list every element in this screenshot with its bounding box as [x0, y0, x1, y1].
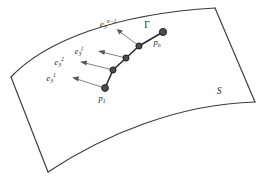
surface-boundary-bottom — [48, 102, 255, 172]
frame-vector-e3-1-head — [72, 76, 79, 81]
frame-vector-e3-n-minus-1 — [117, 29, 140, 46]
frame-vector-label-e3-1: e31 — [46, 72, 56, 84]
frame-vector-e3-j-head — [98, 50, 105, 55]
frame-vector-e3-j-shaft — [101, 52, 126, 58]
frame-vector-e3-2-head — [80, 61, 87, 66]
frame-vector-e3-2-shaft — [83, 63, 113, 71]
curve-node-p1 — [102, 85, 109, 92]
surface-boundary-left — [11, 77, 48, 172]
surface-label: S — [217, 86, 222, 96]
frame-vector-label-e3-2: e32 — [54, 56, 64, 68]
frame-vector-label-e3-n-minus-1: e3n−1 — [100, 18, 116, 30]
frame-vector-e3-1 — [72, 76, 105, 88]
frame-vector-label-e3-j: e3j — [75, 45, 84, 57]
point-label-p1: p1 — [97, 93, 105, 104]
curve-node-p4 — [136, 43, 142, 49]
curve-label: Γ — [144, 20, 150, 30]
frame-vector-e3-1-shaft — [75, 79, 105, 89]
frame-vector-e3-j — [98, 50, 126, 58]
surface-curve-figure: e31 e32 e3j e3n−1 p1 pn Γ S — [0, 0, 258, 180]
curve-node-pn — [159, 28, 166, 35]
frame-vector-e3-n-minus-1-shaft — [119, 31, 139, 46]
point-label-pn: pn — [152, 37, 160, 48]
frame-vector-e3-2 — [80, 61, 113, 70]
curve-node-p2 — [110, 67, 116, 73]
curve-node-p3 — [123, 55, 129, 61]
